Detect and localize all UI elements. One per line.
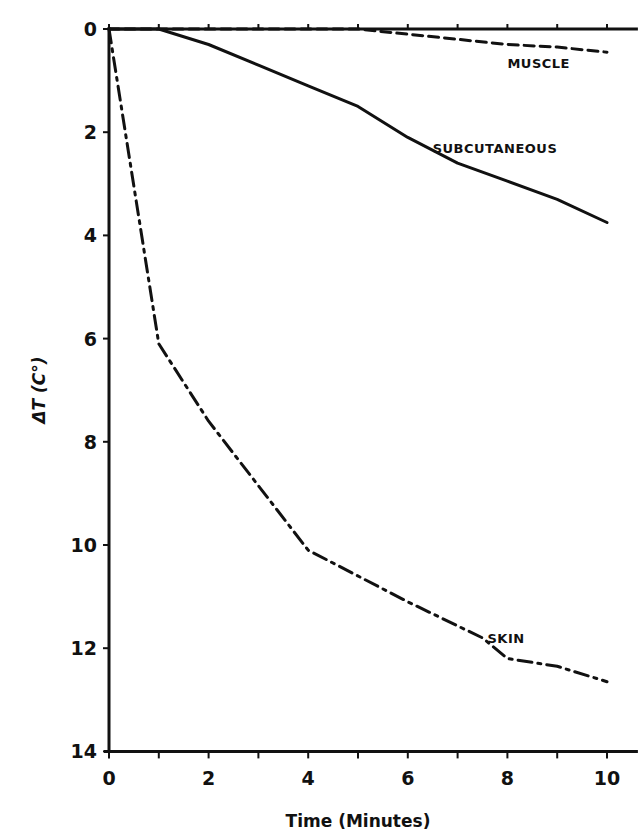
y-tick-label: 14	[71, 740, 97, 762]
y-tick-label: 10	[71, 534, 97, 556]
y-tick-label: 8	[84, 431, 97, 453]
temperature-change-chart: 024681002468101214 MUSCLESUBCUTANEOUSSKI…	[0, 0, 643, 838]
y-tick-label: 0	[84, 18, 97, 40]
y-tick-label: 2	[84, 121, 97, 143]
tick-marks	[103, 24, 607, 758]
series-subcutaneous-label: SUBCUTANEOUS	[433, 141, 558, 156]
x-tick-label: 8	[501, 767, 514, 789]
series-skin-label: SKIN	[487, 631, 524, 646]
y-tick-label: 6	[84, 328, 97, 350]
x-axis-title: Time (Minutes)	[286, 811, 431, 831]
y-tick-label: 12	[71, 637, 97, 659]
y-axis-title: ΔT (C°)	[29, 356, 49, 425]
x-tick-label: 2	[202, 767, 215, 789]
series-skin-line	[109, 29, 607, 682]
y-tick-label: 4	[84, 224, 97, 246]
x-tick-label: 4	[302, 767, 315, 789]
series-muscle-label: MUSCLE	[507, 56, 570, 71]
tick-labels: 024681002468101214	[71, 18, 621, 789]
data-series	[109, 29, 607, 682]
axes	[104, 27, 638, 751]
x-tick-label: 0	[102, 767, 115, 789]
series-labels: MUSCLESUBCUTANEOUSSKIN	[433, 56, 570, 646]
x-tick-label: 10	[594, 767, 620, 789]
series-muscle-line	[109, 29, 607, 52]
x-tick-label: 6	[401, 767, 414, 789]
